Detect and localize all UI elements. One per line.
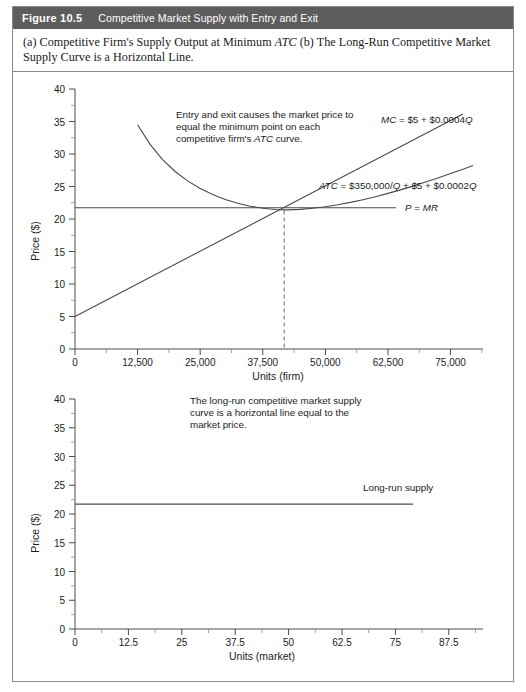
panel-a-xtick-50000: 50,000: [310, 357, 341, 368]
panel-a-y-ticks: [69, 89, 75, 349]
panel-a-xtick-25000: 25,000: [185, 357, 216, 368]
panel-b-annot-line-1: The long-run competitive market supply: [190, 395, 362, 406]
panel-a-x-axis-label: Units (firm): [252, 370, 303, 382]
panel-a-x-ticks: [75, 349, 482, 355]
panel-b-xtick-37-5: 37.5: [225, 637, 245, 648]
panel-b-x-axis-label: Units (market): [229, 650, 295, 662]
panel-a-ytick-35: 35: [54, 117, 66, 128]
panel-a-y-axis-label: Price ($): [29, 221, 41, 261]
panel-a-annot-line-2: equal the minimum point on each: [176, 121, 320, 132]
panel-a-ytick-20: 20: [54, 214, 66, 225]
panel-a-ytick-30: 30: [54, 149, 66, 160]
panel-a-ytick-10: 10: [54, 279, 66, 290]
panel-a-xtick-75000: 75,000: [435, 357, 466, 368]
panel-a-ytick-0: 0: [59, 344, 65, 355]
panel-b-ytick-20: 20: [54, 509, 66, 520]
panel-a-atc-equation-label: ATC = $350,000/Q + $5 + $0.0002Q: [318, 180, 477, 191]
panel-b-y-ticks: [69, 399, 75, 629]
panel-a-xtick-62500: 62,500: [373, 357, 404, 368]
panel-a-ytick-15: 15: [54, 247, 66, 258]
figure-container: Figure 10.5 Competitive Market Supply wi…: [12, 6, 514, 682]
panel-b-ytick-40: 40: [54, 394, 66, 405]
panel-a-chart: 0 5 10 15 20 25 30 35 40 Price ($): [13, 73, 515, 383]
panel-b-ytick-0: 0: [59, 624, 65, 635]
panel-b-annotation: The long-run competitive market supply c…: [190, 395, 362, 430]
panel-b-ytick-10: 10: [54, 567, 66, 578]
panel-a-pmr-label: P = MR: [405, 202, 438, 213]
panel-a-xtick-0: 0: [72, 357, 78, 368]
panel-a-ytick-25: 25: [54, 182, 66, 193]
panel-b-xtick-0: 0: [72, 637, 78, 648]
caption-part-a: (a) Competitive Firm's Supply Output at …: [23, 35, 275, 49]
panel-b-ytick-5: 5: [59, 595, 65, 606]
panel-b-xtick-87-5: 87.5: [439, 637, 459, 648]
panel-b-supply-label: Long-run supply: [363, 482, 433, 493]
figure-title: Competitive Market Supply with Entry and…: [98, 12, 318, 24]
panel-a-annotation: Entry and exit causes the market price t…: [176, 109, 354, 144]
panel-b-chart: 0 5 10 15 20 25 30 35 40 Price ($): [13, 383, 515, 673]
panel-a-mc-equation-label: MC = $5 + $0.0004Q: [381, 114, 473, 125]
panel-b-xtick-12-5: 12.5: [119, 637, 139, 648]
caption-atc-italic: ATC: [275, 35, 297, 49]
panel-b-annot-line-2: curve is a horizontal line equal to the: [190, 407, 350, 418]
panel-a-ytick-40: 40: [54, 84, 66, 95]
panel-b-xtick-62-5: 62.5: [332, 637, 352, 648]
panel-b-ytick-25: 25: [54, 480, 66, 491]
figure-caption: (a) Competitive Firm's Supply Output at …: [13, 29, 513, 72]
panel-b-ytick-30: 30: [54, 452, 66, 463]
panel-b-xtick-50: 50: [283, 637, 295, 648]
panel-b-x-ticks: [75, 629, 476, 635]
figure-page: Figure 10.5 Competitive Market Supply wi…: [0, 0, 526, 692]
panel-b-annot-line-3: market price.: [190, 419, 247, 430]
figure-header: Figure 10.5 Competitive Market Supply wi…: [13, 7, 513, 29]
panel-b-xtick-75: 75: [390, 637, 402, 648]
panel-a-ytick-5: 5: [59, 312, 65, 323]
panel-a-xtick-12500: 12,500: [122, 357, 153, 368]
panel-b-y-axis-label: Price ($): [29, 513, 41, 553]
figure-number: Figure 10.5: [22, 12, 82, 24]
panel-b-ytick-35: 35: [54, 423, 66, 434]
panel-b-ytick-15: 15: [54, 538, 66, 549]
panel-a-mc-line: [75, 114, 463, 317]
panel-a-xtick-37500: 37,500: [248, 357, 279, 368]
panel-b-xtick-25: 25: [176, 637, 188, 648]
panel-a-annot-line-3: competitive firm's ATC curve.: [176, 133, 302, 144]
panel-a-annot-line-1: Entry and exit causes the market price t…: [176, 109, 354, 120]
